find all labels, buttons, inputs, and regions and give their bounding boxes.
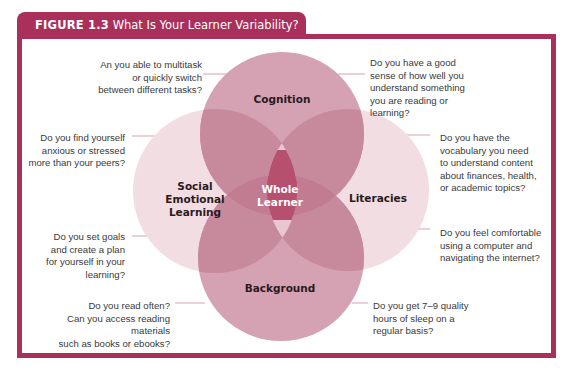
question-sel-anxiety: Do you find yourself anxious or stressed… xyxy=(25,132,125,170)
question-cognition-understanding: Do you have a good sense of how well you… xyxy=(370,57,480,120)
question-background-sleep: Do you get 7–9 quality hours of sleep on… xyxy=(373,300,483,338)
question-background-reading: Do you read often? Can you access readin… xyxy=(30,300,170,350)
label-social-emotional-learning: Social Emotional Learning xyxy=(150,180,240,219)
question-literacies-vocabulary: Do you have the vocabulary you need to u… xyxy=(440,132,550,195)
label-cognition: Cognition xyxy=(242,93,322,106)
label-literacies: Literacies xyxy=(342,192,414,205)
label-background: Background xyxy=(240,282,320,295)
question-literacies-computer: Do you feel comfortable using a computer… xyxy=(440,227,552,265)
question-sel-goals: Do you set goals and create a plan for y… xyxy=(25,231,125,281)
label-whole-learner: Whole Learner xyxy=(250,183,310,209)
question-cognition-multitask: An you able to multitask or quickly swit… xyxy=(90,59,202,97)
